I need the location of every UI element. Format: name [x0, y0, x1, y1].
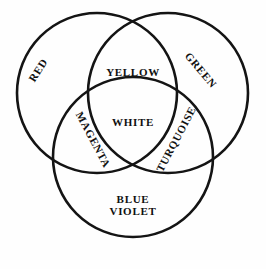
venn-diagram: RED GREEN YELLOW MAGENTA WHITE TURQUOISE…	[0, 0, 266, 269]
label-blue-violet-line2: VIOLET	[93, 205, 173, 217]
label-blue-violet-line1: BLUE	[93, 193, 173, 205]
venn-circles-group	[0, 0, 266, 269]
label-white: WHITE	[103, 116, 163, 128]
label-blue-violet: BLUE VIOLET	[93, 193, 173, 218]
label-yellow: YELLOW	[101, 66, 165, 78]
